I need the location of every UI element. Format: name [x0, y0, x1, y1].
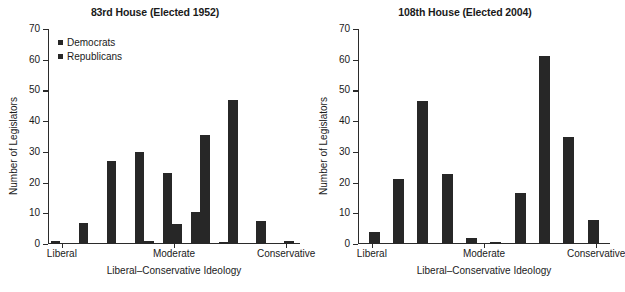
bar	[539, 56, 550, 244]
bar	[163, 173, 173, 244]
bar	[490, 242, 501, 244]
y-axis-tick	[353, 183, 358, 184]
y-axis-tick-label: 60	[29, 55, 40, 65]
bar	[228, 100, 238, 244]
panel-title: 83rd House (Elected 1952)	[0, 6, 310, 18]
bar	[219, 242, 229, 244]
y-axis-tick	[43, 90, 48, 91]
y-axis-tick	[353, 121, 358, 122]
y-axis-tick	[353, 213, 358, 214]
y-axis-tick-label: 40	[29, 116, 40, 126]
y-axis-tick-label: 10	[339, 208, 350, 218]
panel-title: 108th House (Elected 2004)	[310, 6, 620, 18]
bar	[515, 193, 526, 244]
legend-item-republicans: Republicans	[58, 50, 122, 64]
y-axis-tick-label: 0	[34, 239, 40, 249]
x-axis-tick-label: Moderate	[463, 249, 505, 259]
y-axis-tick-label: 20	[339, 178, 350, 188]
y-axis-tick	[353, 152, 358, 153]
y-axis-tick-label: 40	[339, 116, 350, 126]
bar	[369, 232, 380, 244]
x-axis-tick-label: Conservative	[257, 249, 315, 259]
x-axis-tick-label: Conservative	[567, 249, 625, 259]
bar	[442, 174, 453, 244]
x-axis-tick-label: Liberal	[47, 249, 77, 259]
legend-label-republicans: Republicans	[67, 50, 122, 64]
y-axis-tick	[43, 213, 48, 214]
y-axis-tick	[353, 244, 358, 245]
y-axis-tick	[43, 29, 48, 30]
y-axis-tick-label: 30	[339, 147, 350, 157]
bar	[588, 220, 599, 244]
y-axis-tick-label: 0	[344, 239, 350, 249]
y-axis-tick	[353, 90, 358, 91]
y-axis-tick	[43, 121, 48, 122]
y-axis-tick-label: 60	[339, 55, 350, 65]
bar	[79, 223, 89, 245]
bar	[466, 238, 477, 244]
bar	[144, 241, 154, 244]
x-axis-tick-label: Moderate	[153, 249, 195, 259]
square-swatch-icon	[58, 54, 63, 59]
y-axis-line	[48, 29, 49, 244]
bar	[563, 137, 574, 244]
y-axis-tick-label: 50	[339, 85, 350, 95]
bar	[417, 101, 428, 244]
y-axis-tick	[43, 244, 48, 245]
y-axis-tick	[353, 29, 358, 30]
bar	[256, 221, 266, 244]
bar	[284, 241, 294, 244]
x-axis-label: Liberal–Conservative Ideology	[48, 265, 300, 276]
y-axis-label: Number of Legislators	[8, 71, 19, 221]
y-axis-line	[358, 29, 359, 244]
y-axis-tick	[43, 183, 48, 184]
y-axis-tick-label: 70	[29, 24, 40, 34]
panel-83rd-house: 83rd House (Elected 1952) Number of Legi…	[0, 0, 310, 292]
x-axis-tick-label: Liberal	[357, 249, 387, 259]
legend-label-democrats: Democrats	[67, 36, 115, 50]
bar	[172, 224, 182, 244]
legend: Democrats Republicans	[58, 36, 122, 63]
bar	[107, 161, 117, 244]
plot-area: 010203040506070LiberalModerateConservati…	[358, 29, 610, 244]
y-axis-tick-label: 20	[29, 178, 40, 188]
legend-item-democrats: Democrats	[58, 36, 122, 50]
y-axis-tick-label: 10	[29, 208, 40, 218]
y-axis-tick	[43, 152, 48, 153]
panel-108th-house: 108th House (Elected 2004) Number of Leg…	[310, 0, 620, 292]
bar	[51, 241, 61, 244]
x-axis-label: Liberal–Conservative Ideology	[358, 265, 610, 276]
y-axis-tick	[353, 60, 358, 61]
y-axis-tick-label: 50	[29, 85, 40, 95]
y-axis-tick-label: 70	[339, 24, 350, 34]
square-swatch-icon	[58, 40, 63, 45]
y-axis-tick-label: 30	[29, 147, 40, 157]
y-axis-label: Number of Legislators	[318, 71, 329, 221]
y-axis-tick	[43, 60, 48, 61]
bar	[135, 152, 145, 244]
bar	[191, 212, 201, 244]
bar	[200, 135, 210, 244]
bar	[393, 179, 404, 244]
